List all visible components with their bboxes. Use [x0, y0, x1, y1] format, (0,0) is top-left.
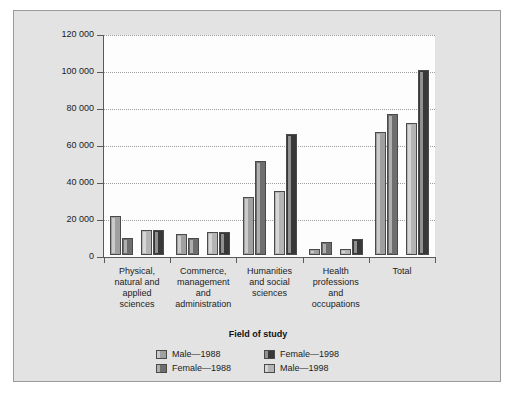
- category-label-line: administration: [164, 299, 242, 310]
- legend-label: Male—1988: [172, 349, 221, 359]
- bar-face: [309, 249, 320, 255]
- bar-face: [255, 161, 266, 255]
- bar-face: [352, 239, 363, 255]
- category-label: Total: [363, 266, 441, 277]
- y-axis-tick: [97, 109, 104, 110]
- y-axis-tick: [97, 220, 104, 221]
- legend-swatch-highlight: [265, 365, 268, 372]
- bar-face: [286, 134, 297, 255]
- legend-label: Female—1998: [280, 349, 339, 359]
- bar: [207, 232, 218, 255]
- y-axis-tick: [97, 35, 104, 36]
- bar: [141, 230, 152, 255]
- bar-highlight: [420, 72, 423, 253]
- bar: [340, 249, 351, 255]
- legend-swatch-highlight: [157, 365, 160, 372]
- bar-face: [219, 232, 230, 255]
- bar-highlight: [389, 116, 392, 253]
- bar-face: [176, 234, 187, 255]
- legend-swatch: [264, 364, 275, 373]
- bar-face: [110, 216, 121, 255]
- bar: [406, 123, 417, 255]
- y-axis-tick-label: 0: [16, 252, 94, 261]
- gridline: [104, 72, 435, 73]
- bar-highlight: [178, 236, 181, 253]
- category-tick: [104, 257, 105, 263]
- bar-highlight: [143, 232, 146, 253]
- x-axis-line: [103, 257, 436, 258]
- y-axis-tick-label: 60 000: [16, 141, 94, 150]
- y-axis-labels: 020 00040 00060 00080 000100 000120 000: [14, 11, 94, 271]
- bar-highlight: [245, 199, 248, 253]
- bar-highlight: [112, 218, 115, 253]
- bar-highlight: [257, 163, 260, 253]
- bar-face: [321, 242, 332, 255]
- bar: [219, 232, 230, 255]
- bar: [255, 161, 266, 255]
- bar-face: [375, 132, 386, 255]
- category-tick: [236, 257, 237, 263]
- bar: [387, 114, 398, 255]
- chart-figure: 020 00040 00060 00080 000100 000120 000 …: [13, 10, 501, 382]
- y-axis-tick-label: 100 000: [16, 67, 94, 76]
- bar: [243, 197, 254, 255]
- bar: [122, 238, 133, 255]
- bar-face: [122, 238, 133, 255]
- legend-item[interactable]: Female—1998: [264, 349, 374, 359]
- bar-highlight: [190, 240, 193, 253]
- y-axis-tick: [97, 183, 104, 184]
- category-label-line: professions: [297, 277, 375, 288]
- y-axis-tick: [97, 146, 104, 147]
- bar-face: [387, 114, 398, 255]
- bar: [418, 70, 429, 255]
- bar-face: [340, 249, 351, 255]
- bar-highlight: [124, 240, 127, 253]
- category-label-line: and: [297, 288, 375, 299]
- category-label-line: occupations: [297, 299, 375, 310]
- legend-swatch-highlight: [265, 351, 268, 358]
- bar-highlight: [323, 244, 326, 253]
- legend-item[interactable]: Female—1988: [156, 363, 258, 373]
- bar-face: [141, 230, 152, 255]
- legend-label: Female—1988: [172, 363, 231, 373]
- category-tick: [435, 257, 436, 263]
- bar-highlight: [311, 251, 314, 253]
- chart-legend: Male—1988Female—1998Female—1988Male—1998: [156, 347, 386, 375]
- legend-swatch-highlight: [157, 351, 160, 358]
- bar-face: [153, 230, 164, 255]
- legend-swatch: [264, 350, 275, 359]
- legend-label: Male—1998: [280, 363, 329, 373]
- bar-highlight: [155, 232, 158, 253]
- bar-face: [406, 123, 417, 255]
- bar: [321, 242, 332, 255]
- y-axis-tick-label: 80 000: [16, 104, 94, 113]
- bar-highlight: [342, 251, 345, 253]
- y-axis-tick: [97, 72, 104, 73]
- legend-swatch: [156, 350, 167, 359]
- bar: [188, 238, 199, 255]
- y-axis-tick-label: 20 000: [16, 215, 94, 224]
- x-axis-title: Field of study: [14, 329, 502, 339]
- category-tick: [303, 257, 304, 263]
- legend-swatch: [156, 364, 167, 373]
- bar-highlight: [221, 234, 224, 253]
- bar: [375, 132, 386, 255]
- legend-item[interactable]: Male—1998: [264, 363, 374, 373]
- category-tick: [369, 257, 370, 263]
- bar-face: [188, 238, 199, 255]
- y-axis-tick: [97, 257, 104, 258]
- gridline: [104, 35, 435, 36]
- legend-item[interactable]: Male—1988: [156, 349, 258, 359]
- bar: [309, 249, 320, 255]
- bar: [110, 216, 121, 255]
- y-axis-tick-label: 120 000: [16, 30, 94, 39]
- bar-face: [418, 70, 429, 255]
- gridline: [104, 109, 435, 110]
- bar-highlight: [377, 134, 380, 253]
- bar-highlight: [276, 193, 279, 253]
- bar: [153, 230, 164, 255]
- category-label-line: Total: [363, 266, 441, 277]
- category-tick: [170, 257, 171, 263]
- y-axis-tick-label: 40 000: [16, 178, 94, 187]
- bar: [352, 239, 363, 255]
